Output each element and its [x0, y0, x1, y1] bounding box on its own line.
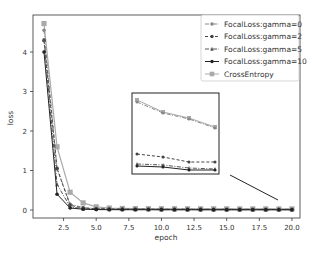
y-tick-label: 2: [23, 128, 27, 136]
x-tick-label: 12.5: [186, 224, 202, 232]
legend: FocalLoss:gamma=0FocalLoss:gamma=2FocalL…: [201, 15, 307, 81]
y-tick-label: 3: [23, 88, 27, 96]
inset-zoom: [132, 93, 278, 200]
x-tick-label: 10.0: [154, 224, 170, 232]
legend-label: CrossEntropy: [224, 70, 274, 79]
x-axis-ticks: 2.55.07.510.012.515.017.520.0: [58, 218, 300, 232]
inset-connector-line: [230, 175, 278, 200]
y-tick-label: 0: [23, 207, 27, 215]
x-tick-label: 2.5: [58, 224, 69, 232]
x-tick-label: 15.0: [219, 224, 235, 232]
x-tick-label: 20.0: [284, 224, 300, 232]
x-tick-label: 17.5: [252, 224, 268, 232]
x-axis-label: epoch: [155, 233, 178, 242]
loss-chart: 2.55.07.510.012.515.017.520.0 01234 epoc…: [0, 0, 312, 253]
y-tick-label: 1: [23, 167, 27, 175]
legend-label: FocalLoss:gamma=0: [224, 20, 302, 29]
legend-label: FocalLoss:gamma=2: [224, 32, 302, 41]
x-tick-label: 7.5: [123, 224, 134, 232]
y-axis-ticks: 01234: [23, 49, 33, 215]
legend-label: FocalLoss:gamma=10: [224, 57, 307, 66]
y-axis-label: loss: [6, 111, 15, 126]
legend-label: FocalLoss:gamma=5: [224, 45, 302, 54]
y-tick-label: 4: [23, 49, 28, 57]
x-tick-label: 5.0: [91, 224, 102, 232]
